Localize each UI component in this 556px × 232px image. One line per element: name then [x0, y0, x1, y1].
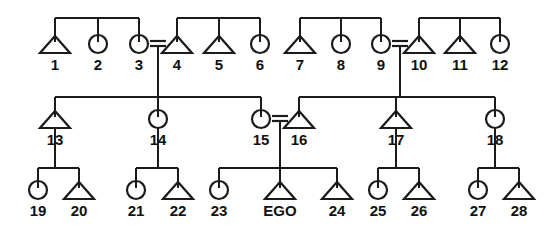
person-label: 23	[211, 202, 228, 219]
person-label: 24	[329, 202, 346, 219]
person-label: 11	[452, 56, 468, 73]
person-label: 7	[296, 56, 304, 73]
person-label: 9	[377, 56, 385, 73]
person-label: 1	[51, 56, 59, 73]
person-label: 26	[411, 202, 428, 219]
person-label: 6	[256, 56, 264, 73]
ego-label: EGO	[263, 202, 297, 219]
person-label: 15	[253, 131, 270, 148]
person-label: 14	[150, 131, 167, 148]
person-label: 19	[30, 202, 47, 219]
person-label: 13	[47, 131, 64, 148]
person-label: 18	[487, 131, 504, 148]
person-label: 2	[94, 56, 102, 73]
person-label: 8	[337, 56, 345, 73]
kinship-canvas: 1234567891011121314151617181920212223EGO…	[0, 0, 556, 232]
person-label: 28	[511, 202, 528, 219]
person-label: 16	[291, 131, 308, 148]
kinship-diagram: 1234567891011121314151617181920212223EGO…	[0, 0, 556, 232]
person-label: 5	[215, 56, 223, 73]
person-label: 22	[170, 202, 187, 219]
person-label: 3	[135, 56, 143, 73]
person-label: 12	[492, 56, 509, 73]
person-label: 10	[411, 56, 428, 73]
person-label: 4	[173, 56, 182, 73]
person-label: 20	[71, 202, 88, 219]
person-label: 17	[388, 131, 405, 148]
person-label: 21	[128, 202, 145, 219]
person-label: 27	[470, 202, 487, 219]
person-label: 25	[370, 202, 387, 219]
